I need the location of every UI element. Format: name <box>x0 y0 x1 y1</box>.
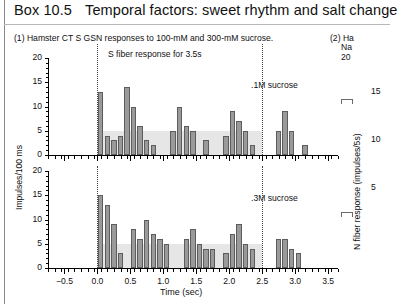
histogram-bar <box>230 234 235 268</box>
histogram-bar <box>105 136 110 155</box>
x-minor-tick-panel1 <box>272 156 273 159</box>
event-marker-line <box>262 44 263 155</box>
x-major-tick-panel1 <box>229 156 230 161</box>
x-minor-tick-panel1 <box>134 156 135 159</box>
cropped-panel2-fragment <box>341 99 353 104</box>
y-minor-tick-panel1 <box>46 145 48 146</box>
x-major-tick-panel1 <box>130 156 131 161</box>
x-minor-tick-panel2 <box>213 269 214 272</box>
x-minor-tick-panel2 <box>180 269 181 272</box>
x-minor-tick-panel2 <box>272 269 273 272</box>
x-tick-label: 3.5 <box>314 276 342 286</box>
x-tick-label: 0.0 <box>83 276 111 286</box>
histogram-bar <box>111 140 116 155</box>
y-minor-tick-panel1 <box>46 102 48 103</box>
x-minor-tick-panel1 <box>200 156 201 159</box>
histogram-bar <box>282 239 287 268</box>
histogram-bar <box>151 234 156 268</box>
x-minor-tick-panel2 <box>259 269 260 272</box>
x-minor-tick-panel2 <box>226 269 227 272</box>
histogram-bar <box>144 220 149 269</box>
y-minor-tick-panel1 <box>46 63 48 64</box>
y-tick-label-panel2: 0 <box>22 262 42 272</box>
y-axis-panel2 <box>48 171 49 269</box>
x-minor-tick-panel2 <box>48 269 49 272</box>
y-tick-label-panel2: 20 <box>22 165 42 175</box>
histogram-bar <box>170 131 175 155</box>
x-minor-tick-panel2 <box>55 269 56 272</box>
y-tick-panel2 <box>45 244 48 245</box>
x-minor-tick-panel2 <box>107 269 108 272</box>
histogram-bar <box>302 145 307 155</box>
y-axis-panel1 <box>48 58 49 156</box>
histogram-bar <box>157 239 162 268</box>
x-minor-tick-panel2 <box>94 269 95 272</box>
histogram-bar <box>184 239 189 268</box>
x-major-tick-panel1 <box>262 156 263 161</box>
histogram-bar <box>197 244 202 268</box>
x-minor-tick-panel1 <box>68 156 69 159</box>
y-minor-tick-panel2 <box>46 263 48 264</box>
x-minor-tick-panel1 <box>74 156 75 159</box>
x-minor-tick-panel2 <box>200 269 201 272</box>
y-minor-tick-panel1 <box>46 111 48 112</box>
x-minor-tick-panel2 <box>219 269 220 272</box>
x-minor-tick-panel1 <box>285 156 286 159</box>
y-minor-tick-panel1 <box>46 97 48 98</box>
y-minor-tick-panel2 <box>46 229 48 230</box>
y-tick-label-panel1: 20 <box>22 52 42 62</box>
histogram-bar <box>164 244 169 268</box>
histogram-bar <box>236 121 241 155</box>
x-minor-tick-panel2 <box>140 269 141 272</box>
y-minor-tick-panel1 <box>46 68 48 69</box>
y-minor-tick-panel2 <box>46 181 48 182</box>
histogram-bar <box>98 195 103 268</box>
y-minor-tick-panel2 <box>46 210 48 211</box>
x-minor-tick-panel1 <box>219 156 220 159</box>
x-minor-tick-panel1 <box>81 156 82 159</box>
y-tick-panel1 <box>45 58 48 59</box>
x-minor-tick-panel2 <box>114 269 115 272</box>
x-minor-tick-panel2 <box>298 269 299 272</box>
x-tick-label: 2.5 <box>248 276 276 286</box>
y-tick-panel2 <box>45 195 48 196</box>
y-tick-label-right: 10 <box>371 134 381 144</box>
x-minor-tick-panel1 <box>48 156 49 159</box>
x-minor-tick-panel1 <box>160 156 161 159</box>
x-minor-tick-panel1 <box>298 156 299 159</box>
histogram-bar <box>282 111 287 155</box>
histogram-bar <box>289 131 294 155</box>
x-minor-tick-panel1 <box>259 156 260 159</box>
x-major-tick-panel2 <box>295 269 296 274</box>
histogram-bar <box>137 126 142 155</box>
histogram-bar <box>230 111 235 155</box>
histogram-bar <box>243 244 248 268</box>
y-tick-panel1 <box>45 107 48 108</box>
x-minor-tick-panel2 <box>186 269 187 272</box>
y-minor-tick-panel2 <box>46 253 48 254</box>
y-minor-tick-panel1 <box>46 87 48 88</box>
x-minor-tick-panel1 <box>167 156 168 159</box>
y-tick-label-right: 5 <box>371 182 376 192</box>
x-minor-tick-panel1 <box>318 156 319 159</box>
x-minor-tick-panel1 <box>173 156 174 159</box>
event-marker-line <box>97 44 98 155</box>
x-tick-label: −0.5 <box>50 276 78 286</box>
x-major-tick-panel2 <box>97 269 98 274</box>
x-minor-tick-panel2 <box>312 269 313 272</box>
histogram-bar <box>131 107 136 156</box>
histogram-bar <box>105 205 110 268</box>
y-minor-tick-panel1 <box>46 126 48 127</box>
x-minor-tick-panel2 <box>134 269 135 272</box>
x-minor-tick-panel1 <box>292 156 293 159</box>
x-minor-tick-panel2 <box>167 269 168 272</box>
x-minor-tick-panel2 <box>239 269 240 272</box>
x-minor-tick-panel1 <box>305 156 306 159</box>
histogram-bar <box>250 145 255 155</box>
x-major-tick-panel1 <box>163 156 164 161</box>
y-minor-tick-panel1 <box>46 77 48 78</box>
x-major-tick-panel2 <box>328 269 329 274</box>
x-major-tick-panel1 <box>328 156 329 161</box>
histogram-bar <box>144 140 149 155</box>
x-minor-tick-panel1 <box>101 156 102 159</box>
